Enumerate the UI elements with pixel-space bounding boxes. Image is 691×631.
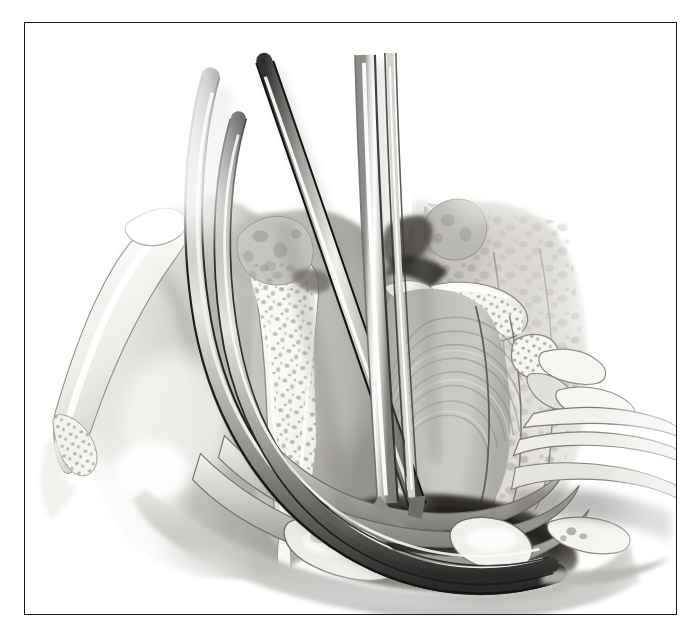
top-left-paper-fade bbox=[25, 23, 224, 232]
anatomical-illustration bbox=[25, 23, 676, 614]
figure-page: sagittal cut-away view of the upper airw… bbox=[0, 0, 691, 631]
illustration-body bbox=[25, 23, 676, 614]
top-right-paper-fade bbox=[454, 23, 676, 212]
bottom-left-paper-fade bbox=[25, 561, 234, 614]
figure-frame: sagittal cut-away view of the upper airw… bbox=[24, 22, 677, 615]
